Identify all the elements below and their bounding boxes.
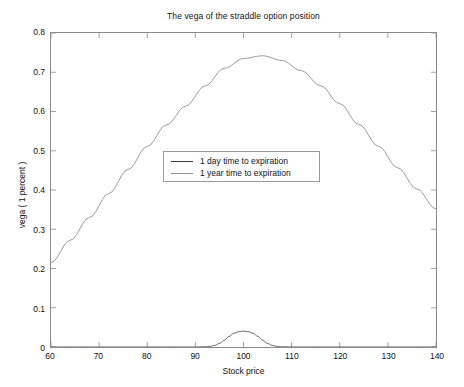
y-tick-label: 0.6 [3, 106, 45, 116]
legend-swatch-1-day [171, 161, 193, 162]
y-tick-label: 0.8 [3, 27, 45, 37]
x-tick-label: 100 [224, 351, 264, 361]
x-tick-label: 80 [127, 351, 167, 361]
y-tick-label: 0.1 [3, 304, 45, 314]
x-tick-label: 130 [369, 351, 409, 361]
x-tick-label: 60 [30, 351, 70, 361]
x-axis-tick-labels: 60708090100110120130140 [50, 351, 437, 365]
x-tick-label: 70 [78, 351, 118, 361]
x-tick-label: 90 [175, 351, 215, 361]
figure-canvas: The vega of the straddle option position… [0, 0, 464, 387]
plot-curves [51, 33, 436, 347]
legend-box: 1 day time to expiration 1 year time to … [163, 151, 320, 182]
plot-area [50, 32, 437, 348]
y-tick-marks [51, 33, 436, 347]
x-tick-marks [51, 33, 436, 347]
y-tick-label: 0.7 [3, 67, 45, 77]
x-tick-label: 120 [320, 351, 360, 361]
x-tick-label: 140 [417, 351, 457, 361]
legend-item: 1 day time to expiration [164, 155, 319, 167]
legend-label: 1 day time to expiration [200, 155, 288, 167]
legend-swatch-1-year [171, 173, 193, 174]
legend-item: 1 year time to expiration [164, 167, 319, 179]
y-axis-label: vega ( 1 percent ) [17, 125, 27, 265]
x-axis-label: Stock price [50, 366, 437, 376]
y-tick-label: 0.2 [3, 264, 45, 274]
legend-label: 1 year time to expiration [200, 167, 291, 179]
chart-title: The vega of the straddle option position [50, 11, 437, 21]
x-tick-label: 110 [272, 351, 312, 361]
